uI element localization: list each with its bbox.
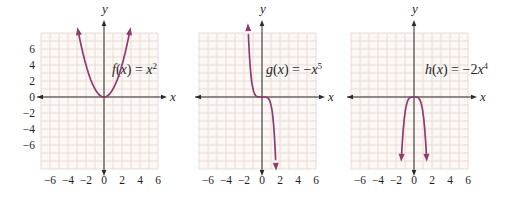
grid-background — [199, 33, 316, 169]
x-tick-label: 2 — [277, 174, 283, 186]
x-tick-label: −2 — [390, 174, 402, 186]
x-tick-label: −4 — [372, 174, 384, 186]
y-tick-label: 4 — [29, 59, 35, 71]
x-tick-label: 4 — [137, 174, 143, 186]
graph-panel-g: yx−6−4−20246g(x) = −x5 — [172, 0, 340, 200]
x-tick-label: 6 — [313, 174, 319, 186]
y-tick-label: −4 — [23, 123, 35, 135]
x-tick-label: −2 — [238, 174, 250, 186]
y-tick-label: −2 — [23, 107, 35, 119]
x-tick-label: 0 — [259, 174, 265, 186]
curve-end-arrow-icon — [76, 27, 82, 35]
grid-background — [41, 33, 158, 169]
y-axis-label: y — [258, 1, 266, 16]
graph-panel-f: yx−6−4−202466420−2−4−6f(x) = x2 — [0, 0, 172, 200]
y-axis-label: y — [410, 1, 418, 16]
x-tick-label: 6 — [465, 174, 471, 186]
y-axis-label: y — [100, 1, 108, 16]
y-tick-label: −6 — [23, 139, 35, 151]
x-tick-label: −4 — [62, 174, 74, 186]
graph-panel-h: yx−6−4−20246h(x) = −2x4 — [340, 0, 509, 200]
y-axis-up-arrow-icon — [102, 20, 107, 26]
grid-background — [351, 33, 468, 169]
x-tick-label: 6 — [155, 174, 161, 186]
graph-svg-g: yx−6−4−20246g(x) = −x5 — [172, 0, 340, 200]
graph-svg-f: yx−6−4−202466420−2−4−6f(x) = x2 — [0, 0, 172, 200]
x-tick-label: 4 — [295, 174, 301, 186]
x-axis-right-arrow-icon — [471, 95, 477, 100]
x-tick-label: 2 — [119, 174, 125, 186]
x-tick-label: −2 — [80, 174, 92, 186]
x-axis-label: x — [327, 89, 334, 104]
y-tick-label: 0 — [29, 91, 35, 103]
curve-end-arrow-icon — [245, 23, 251, 31]
function-label: g(x) = −x5 — [266, 61, 323, 78]
x-tick-label: −4 — [220, 174, 232, 186]
x-tick-label: 2 — [429, 174, 435, 186]
y-axis-up-arrow-icon — [260, 20, 265, 26]
y-tick-label: 6 — [29, 43, 35, 55]
x-tick-label: −6 — [44, 174, 56, 186]
x-axis-left-arrow-icon — [347, 95, 353, 100]
y-tick-label: 2 — [29, 75, 35, 87]
x-tick-label: −6 — [202, 174, 214, 186]
x-tick-label: 4 — [447, 174, 453, 186]
x-axis-right-arrow-icon — [161, 95, 167, 100]
y-axis-up-arrow-icon — [412, 20, 417, 26]
x-axis-label: x — [479, 89, 486, 104]
x-tick-label: 0 — [101, 174, 107, 186]
x-axis-right-arrow-icon — [319, 95, 325, 100]
x-tick-label: 0 — [411, 174, 417, 186]
x-axis-left-arrow-icon — [195, 95, 201, 100]
graph-svg-h: yx−6−4−20246h(x) = −2x4 — [340, 0, 509, 200]
function-label: h(x) = −2x4 — [425, 61, 489, 78]
polynomial-graphs-figure: yx−6−4−202466420−2−4−6f(x) = x2 yx−6−4−2… — [0, 0, 509, 200]
x-tick-label: −6 — [354, 174, 366, 186]
curve-end-arrow-icon — [126, 27, 132, 35]
x-axis-left-arrow-icon — [37, 95, 43, 100]
